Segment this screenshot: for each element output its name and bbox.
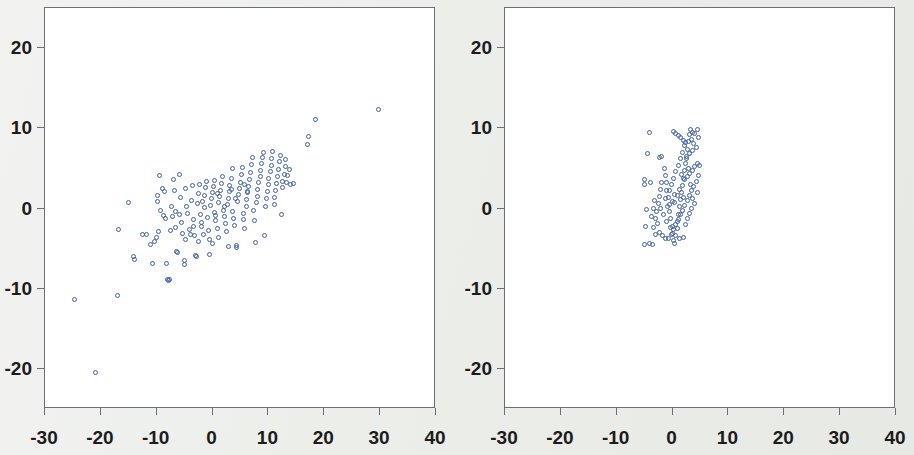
data-point xyxy=(673,169,678,174)
data-point xyxy=(277,159,282,164)
data-point xyxy=(206,228,211,233)
data-point xyxy=(280,185,285,190)
data-point xyxy=(681,235,686,240)
data-point xyxy=(661,212,666,217)
data-point xyxy=(670,199,675,204)
x-axis-tick xyxy=(156,408,157,415)
data-point xyxy=(184,204,189,209)
data-point xyxy=(258,174,263,179)
data-point xyxy=(665,204,670,209)
data-point xyxy=(668,216,673,221)
data-point xyxy=(672,192,677,197)
data-point xyxy=(258,168,263,173)
data-point xyxy=(171,177,176,182)
data-point xyxy=(223,221,228,226)
data-point xyxy=(162,189,167,194)
data-point xyxy=(252,218,257,223)
x-axis-tick-label: 10 xyxy=(257,428,278,447)
data-point xyxy=(261,150,266,155)
data-point xyxy=(647,130,652,135)
data-point xyxy=(677,236,682,241)
data-point xyxy=(172,188,177,193)
data-point xyxy=(272,195,277,200)
data-point xyxy=(659,154,664,159)
data-point xyxy=(230,166,235,171)
data-point xyxy=(240,165,245,170)
data-point xyxy=(663,196,668,201)
data-point xyxy=(245,189,250,194)
data-point xyxy=(204,179,209,184)
data-point xyxy=(197,182,202,187)
data-point xyxy=(658,187,663,192)
x-axis-tick-label: -20 xyxy=(86,428,113,447)
data-point xyxy=(211,184,216,189)
data-point xyxy=(182,262,187,267)
data-point xyxy=(155,193,160,198)
x-axis-tick-label: -10 xyxy=(142,428,169,447)
data-point xyxy=(220,174,225,179)
data-point xyxy=(667,188,672,193)
data-point xyxy=(155,199,160,204)
data-point xyxy=(253,240,258,245)
data-point xyxy=(283,157,288,162)
data-point xyxy=(663,173,668,178)
data-point xyxy=(313,117,318,122)
data-point xyxy=(259,161,264,166)
data-point xyxy=(696,135,701,140)
data-point xyxy=(686,166,691,171)
data-point xyxy=(246,184,251,189)
data-point xyxy=(93,370,98,375)
data-point xyxy=(268,169,273,174)
data-point xyxy=(279,212,284,217)
y-axis-tick xyxy=(37,127,44,128)
data-point xyxy=(213,213,218,218)
data-point xyxy=(677,187,682,192)
x-axis-tick xyxy=(267,408,268,415)
data-point xyxy=(237,186,242,191)
data-point xyxy=(676,163,681,168)
data-point xyxy=(649,214,654,219)
data-point xyxy=(274,181,279,186)
data-point xyxy=(200,199,205,204)
plot-frame-right xyxy=(504,7,895,408)
data-point xyxy=(667,209,672,214)
data-point xyxy=(692,201,697,206)
y-axis-tick-label: 0 xyxy=(0,198,32,217)
data-point xyxy=(190,183,195,188)
data-point xyxy=(262,233,267,238)
data-point xyxy=(642,182,647,187)
plot-area-right xyxy=(505,8,894,407)
data-point xyxy=(72,297,77,302)
data-point xyxy=(643,224,648,229)
data-point xyxy=(209,196,214,201)
y-axis-tick-label: -10 xyxy=(0,278,32,297)
data-point xyxy=(156,229,161,234)
data-point xyxy=(270,149,275,154)
data-point xyxy=(248,170,253,175)
data-point xyxy=(669,182,674,187)
data-point xyxy=(126,200,131,205)
x-axis-tick xyxy=(435,408,436,415)
x-axis-tick-label: 0 xyxy=(206,428,217,447)
y-axis-tick xyxy=(497,47,504,48)
data-point xyxy=(150,261,155,266)
data-point xyxy=(132,257,137,262)
data-point xyxy=(275,174,280,179)
data-point xyxy=(215,226,220,231)
x-axis-tick-label: 40 xyxy=(424,428,445,447)
data-point xyxy=(232,223,237,228)
x-axis-tick-label: 30 xyxy=(829,428,850,447)
data-point xyxy=(222,204,227,209)
x-axis-tick xyxy=(212,408,213,415)
x-axis-tick xyxy=(379,408,380,415)
data-point xyxy=(202,205,207,210)
data-point xyxy=(210,241,215,246)
x-axis-tick-label: 40 xyxy=(884,428,905,447)
y-axis-tick-label: -10 xyxy=(452,278,492,297)
data-point xyxy=(683,222,688,227)
data-point xyxy=(168,228,173,233)
data-point xyxy=(191,217,196,222)
x-axis-tick xyxy=(727,408,728,415)
data-point xyxy=(376,107,381,112)
plot-frame-left xyxy=(44,7,435,408)
